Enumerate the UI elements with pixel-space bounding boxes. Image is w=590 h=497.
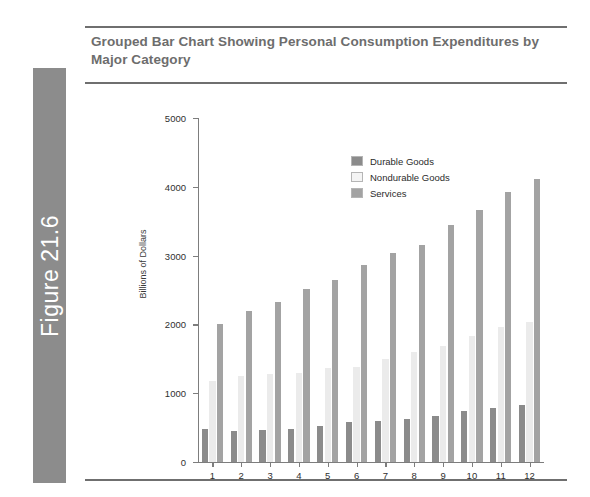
bar	[375, 421, 381, 462]
bar	[259, 430, 265, 462]
chart-legend: Durable GoodsNondurable GoodsServices	[351, 154, 450, 202]
bar	[275, 302, 281, 462]
y-axis-tick-label: 4000	[165, 181, 186, 192]
x-axis-tick	[530, 462, 531, 467]
bar	[288, 429, 294, 462]
chart-plot-region: Billions of Dollars 01000200030004000500…	[85, 84, 567, 479]
x-axis-tick	[501, 462, 502, 467]
legend-swatch-icon	[351, 156, 363, 166]
legend-swatch-icon	[351, 172, 363, 182]
legend-label: Nondurable Goods	[370, 172, 450, 183]
y-axis-tick: 1000	[193, 393, 198, 394]
y-axis-title: Billions of Dollars	[138, 184, 148, 344]
bar	[469, 336, 475, 462]
bar	[476, 210, 482, 462]
bar	[382, 359, 388, 462]
bar	[303, 289, 309, 462]
x-axis-line	[198, 462, 544, 463]
legend-swatch-icon	[351, 188, 363, 198]
y-axis-tick: 4000	[193, 187, 198, 188]
bar	[461, 411, 467, 462]
bar	[505, 192, 511, 462]
bar	[440, 346, 446, 462]
bar	[317, 426, 323, 462]
bar	[238, 376, 244, 462]
rule-top-divider	[85, 26, 567, 28]
bar	[498, 327, 504, 462]
y-axis-tick-label: 5000	[165, 113, 186, 124]
bar	[519, 405, 525, 462]
bar	[246, 311, 252, 462]
x-axis-tick	[443, 462, 444, 467]
bar	[231, 431, 237, 462]
bar	[325, 368, 331, 462]
bar	[411, 352, 417, 462]
bar	[490, 408, 496, 462]
bar	[332, 280, 338, 462]
y-axis-tick-label: 1000	[165, 388, 186, 399]
chart-title: Grouped Bar Chart Showing Personal Consu…	[91, 33, 561, 69]
x-axis-tick	[299, 462, 300, 467]
figure-page: Figure 21.6 Grouped Bar Chart Showing Pe…	[0, 0, 590, 497]
bar	[432, 416, 438, 462]
x-axis-tick	[212, 462, 213, 467]
legend-item: Services	[351, 186, 450, 200]
x-axis-tick	[472, 462, 473, 467]
x-axis-tick	[357, 462, 358, 467]
chart-axes: 010002000300040005000 123456789101112 Du…	[198, 118, 544, 462]
bar	[448, 225, 454, 462]
y-axis-tick: 0	[193, 462, 198, 463]
legend-item: Durable Goods	[351, 154, 450, 168]
y-axis-tick-label: 3000	[165, 250, 186, 261]
bar	[209, 381, 215, 462]
y-axis-tick: 5000	[193, 118, 198, 119]
bar	[404, 419, 410, 462]
bar	[419, 245, 425, 462]
rule-bottom-divider	[85, 479, 567, 481]
bar	[390, 253, 396, 462]
figure-content: Grouped Bar Chart Showing Personal Consu…	[85, 26, 567, 481]
legend-label: Durable Goods	[370, 156, 434, 167]
y-axis-tick: 2000	[193, 324, 198, 325]
x-axis-tick	[270, 462, 271, 467]
y-axis-tick-label: 0	[181, 457, 186, 468]
x-axis-tick	[328, 462, 329, 467]
bar	[217, 324, 223, 462]
legend-label: Services	[370, 188, 406, 199]
x-axis-tick	[414, 462, 415, 467]
figure-number-label: Figure 21.6	[36, 215, 63, 337]
bar	[296, 373, 302, 462]
x-axis-tick	[385, 462, 386, 467]
bar	[534, 179, 540, 462]
bar	[346, 422, 352, 462]
bar	[361, 265, 367, 462]
bar	[202, 429, 208, 462]
bar	[526, 322, 532, 462]
y-axis-line	[198, 118, 199, 462]
y-axis-tick: 3000	[193, 256, 198, 257]
bar	[353, 367, 359, 462]
figure-number-tab: Figure 21.6	[33, 68, 66, 483]
bar	[267, 374, 273, 462]
x-axis-tick	[241, 462, 242, 467]
y-axis-tick-label: 2000	[165, 319, 186, 330]
legend-item: Nondurable Goods	[351, 170, 450, 184]
